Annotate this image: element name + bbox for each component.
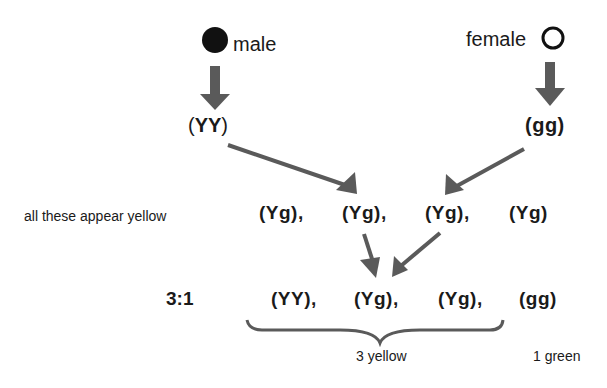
f1-genotype-4: (Yg)	[509, 202, 548, 224]
green-count-label: 1 green	[533, 348, 580, 364]
f1-self-cross-arrow-left-icon	[360, 234, 380, 278]
male-symbol-icon	[202, 27, 228, 53]
f1-caption: all these appear yellow	[24, 208, 166, 224]
male-cross-arrow-icon	[228, 145, 357, 194]
arrows-layer	[0, 0, 607, 388]
male-genotype: (YY)	[188, 114, 228, 137]
paren-open: (	[188, 114, 195, 136]
f1-self-cross-arrow-right-icon	[392, 233, 440, 277]
female-label: female	[466, 28, 526, 51]
male-genotype-alleles: YY	[195, 114, 222, 136]
yellow-group-brace	[247, 320, 503, 343]
f2-genotype-2: (Yg),	[354, 288, 399, 310]
f2-genotype-4: (gg)	[519, 288, 557, 310]
male-label: male	[233, 33, 276, 56]
female-symbol-icon	[543, 28, 563, 48]
f1-genotype-2: (Yg),	[342, 202, 387, 224]
female-genotype: (gg)	[525, 114, 565, 137]
yellow-count-label: 3 yellow	[356, 348, 407, 364]
f1-genotype-1: (Yg),	[259, 202, 304, 224]
paren-close: )	[221, 114, 228, 136]
male-down-arrow-icon	[200, 66, 230, 110]
female-cross-arrow-icon	[445, 149, 524, 195]
female-down-arrow-icon	[535, 62, 565, 106]
f1-genotype-3: (Yg),	[425, 202, 470, 224]
f2-ratio: 3:1	[166, 288, 193, 310]
f2-genotype-1: (YY),	[271, 288, 317, 310]
f2-genotype-3: (Yg),	[438, 288, 483, 310]
